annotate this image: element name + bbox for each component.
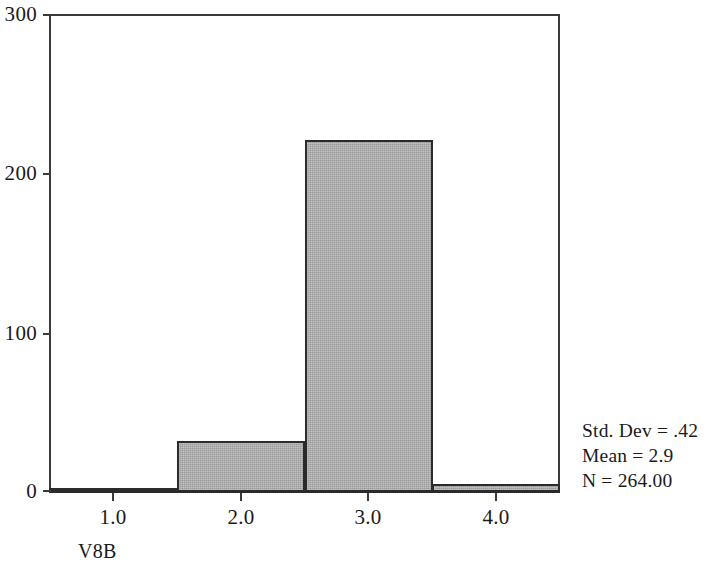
x-axis-tick	[240, 493, 242, 501]
x-axis-title: V8B	[78, 540, 117, 563]
x-axis-tick-label: 1.0	[78, 505, 148, 529]
x-axis-tick	[495, 493, 497, 501]
std-dev-text: Std. Dev = .42	[582, 418, 698, 443]
y-axis-tick-label: 300	[5, 4, 37, 25]
n-text: N = 264.00	[582, 468, 698, 493]
histogram-bar	[305, 140, 433, 492]
y-axis-tick	[43, 173, 51, 175]
x-axis-line	[49, 490, 560, 493]
y-axis-tick-label: 200	[5, 163, 37, 184]
x-axis-tick	[367, 493, 369, 501]
mean-text: Mean = 2.9	[582, 443, 698, 468]
histogram-chart: 300 200 100 0 1.0 2.0 3.0 4.0 V8B Std. D…	[0, 0, 713, 573]
statistics-annotation: Std. Dev = .42 Mean = 2.9 N = 264.00	[582, 418, 698, 493]
x-axis-tick-label: 3.0	[333, 505, 403, 529]
y-axis-tick	[43, 14, 51, 16]
y-axis-tick	[43, 490, 51, 492]
bars-layer	[49, 14, 560, 492]
y-axis-tick-label: 0	[26, 481, 37, 502]
x-axis-tick-label: 2.0	[206, 505, 276, 529]
x-axis-tick-label: 4.0	[461, 505, 531, 529]
y-axis-tick-label: 100	[5, 323, 37, 344]
y-axis-tick	[43, 333, 51, 335]
histogram-bar	[177, 441, 305, 492]
x-axis-tick	[112, 493, 114, 501]
